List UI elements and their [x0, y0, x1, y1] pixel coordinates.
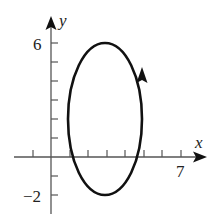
direction-arrow-icon	[137, 67, 148, 83]
x-axis-ticks	[33, 150, 181, 157]
x-tick-label-7: 7	[176, 163, 185, 180]
y-axis-label: y	[59, 12, 67, 29]
y-tick-label-6: 6	[33, 36, 42, 53]
y-axis	[46, 16, 59, 214]
x-axis-label: x	[195, 134, 203, 151]
x-axis	[14, 150, 207, 163]
ellipse-curve	[68, 43, 142, 195]
y-axis-ticks	[51, 43, 58, 195]
y-tick-label-neg2: −2	[23, 188, 41, 205]
